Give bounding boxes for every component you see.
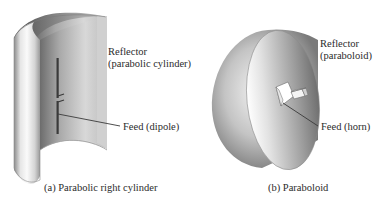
reflector-label-b-line1: Reflector	[320, 38, 372, 50]
reflector-label-b-line2: (paraboloid)	[320, 50, 372, 62]
feed-label-panel-a: Feed (dipole)	[123, 121, 179, 133]
antenna-reflectors-figure	[0, 0, 379, 209]
feed-label-panel-b: Feed (horn)	[321, 121, 370, 133]
reflector-label-a-line2: (parabolic cylinder)	[108, 58, 191, 70]
reflector-label-panel-a: Reflector (parabolic cylinder)	[108, 46, 191, 70]
caption-panel-b: (b) Paraboloid	[268, 182, 328, 194]
reflector-label-a-line1: Reflector	[108, 46, 191, 58]
reflector-label-panel-b: Reflector (paraboloid)	[320, 38, 372, 62]
caption-panel-a: (a) Parabolic right cylinder	[44, 182, 157, 194]
paraboloid-reflector	[212, 27, 326, 174]
parabolic-cylinder-reflector	[14, 13, 107, 184]
